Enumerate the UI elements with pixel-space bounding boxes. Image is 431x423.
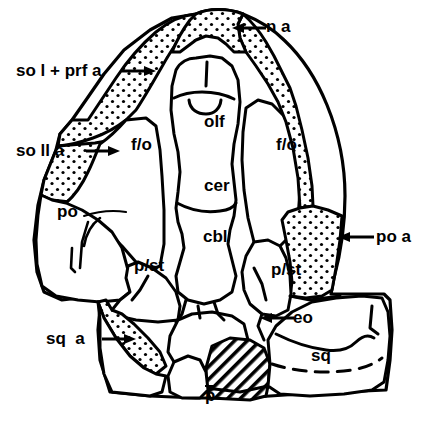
arrow-so2-a xyxy=(84,141,122,161)
label-cbl: cbl xyxy=(203,228,228,245)
figure-container: n a so l + prf a so ll a po a sq a eo ol… xyxy=(0,0,431,423)
label-sq-a: sq a xyxy=(46,330,85,347)
label-so2-a: so ll a xyxy=(16,142,64,159)
region-hatched-basioccipital xyxy=(206,338,270,394)
label-so1-prf-a: so l + prf a xyxy=(16,62,102,79)
label-p-text: p xyxy=(205,385,215,405)
label-pst-right: p/st xyxy=(271,261,301,278)
arrow-po-a xyxy=(336,227,376,247)
label-fo-left: f/o xyxy=(131,136,152,153)
label-pst-left: p/st xyxy=(134,257,164,274)
arrow-eo xyxy=(258,308,296,328)
label-sq: sq xyxy=(311,347,331,364)
arrow-na xyxy=(230,18,270,38)
arrow-sq-a xyxy=(100,329,138,349)
label-olf: olf xyxy=(204,113,225,130)
olf-midline-slit xyxy=(206,62,207,86)
label-fo-right: f/o xyxy=(276,136,297,153)
label-cer: cer xyxy=(204,177,230,194)
label-p: p xyxy=(186,368,215,422)
label-po-a: po a xyxy=(376,228,411,245)
label-po: po xyxy=(57,203,78,220)
arrow-so1-prf-a xyxy=(120,61,158,81)
